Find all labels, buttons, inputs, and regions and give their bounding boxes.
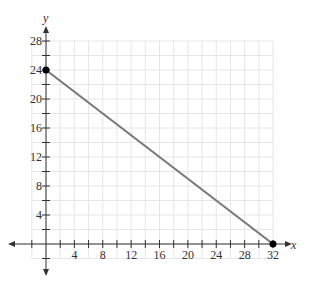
x-tick-label: 4	[71, 248, 77, 262]
x-tick-label: 24	[210, 248, 222, 262]
tick-labels: 48121620242832481216202428	[30, 34, 279, 262]
y-tick-label: 24	[30, 63, 42, 77]
data-point	[43, 67, 50, 74]
chart: 48121620242832481216202428 x y	[0, 0, 309, 288]
grid	[32, 41, 273, 259]
x-tick-label: 16	[154, 248, 166, 262]
y-tick-label: 12	[30, 150, 42, 164]
x-tick-label: 32	[267, 248, 279, 262]
y-tick-label: 20	[30, 92, 42, 106]
x-tick-label: 28	[239, 248, 251, 262]
y-tick-label: 4	[36, 208, 42, 222]
x-tick-label: 20	[182, 248, 194, 262]
y-tick-label: 8	[36, 179, 42, 193]
x-axis-label: x	[290, 238, 297, 252]
y-axis-down-arrow-icon	[43, 269, 49, 276]
y-axis-label: y	[42, 11, 49, 25]
data-point	[270, 241, 277, 248]
y-tick-label: 28	[30, 34, 42, 48]
ticks	[32, 41, 273, 259]
x-tick-label: 8	[100, 248, 106, 262]
x-tick-label: 12	[125, 248, 137, 262]
x-axis-left-arrow-icon	[8, 241, 15, 247]
y-tick-label: 16	[30, 121, 42, 135]
y-axis-up-arrow-icon	[43, 26, 49, 33]
